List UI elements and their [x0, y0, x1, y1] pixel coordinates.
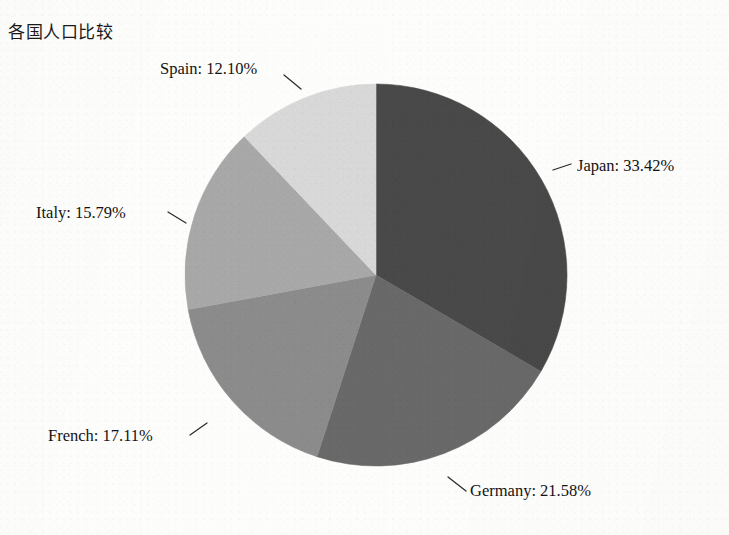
pie-label-japan: Japan: 33.42% [577, 158, 674, 175]
leader-line-french [190, 423, 207, 435]
pie-slices-group [185, 84, 567, 466]
pie-chart-figure [0, 0, 729, 535]
pie-label-germany: Germany: 21.58% [470, 483, 591, 500]
leader-line-italy [168, 212, 186, 223]
leader-line-japan [553, 164, 571, 170]
pie-label-french: French: 17.11% [48, 428, 153, 445]
pie-label-spain: Spain: 12.10% [160, 61, 257, 78]
leader-line-spain [284, 75, 301, 89]
figure-caption [0, 524, 729, 535]
pie-label-italy: Italy: 15.79% [36, 205, 126, 222]
pie-chart-page: 各国人口比较 Ja [0, 0, 729, 535]
leader-line-germany [448, 477, 466, 491]
page-title: 各国人口比较 [8, 22, 113, 42]
